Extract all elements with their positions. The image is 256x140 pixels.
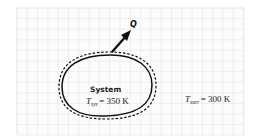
thermo-diagram: Q System Tsys= 350 K Tsurr= 300 K <box>0 0 256 140</box>
heat-label: Q <box>130 20 137 29</box>
system-label: System <box>90 85 121 94</box>
